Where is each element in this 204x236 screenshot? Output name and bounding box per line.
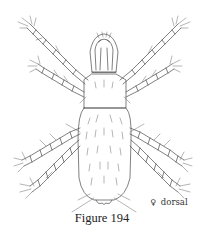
propodosoma <box>80 74 130 108</box>
hysterosoma <box>66 108 144 212</box>
gnathosoma <box>90 32 118 72</box>
leg-4-right <box>130 140 190 198</box>
view-label: ♀dorsal <box>150 197 188 207</box>
leg-1-right <box>120 16 190 84</box>
figure-194: ♀dorsal Figure 194 <box>0 0 204 236</box>
figure-caption: Figure 194 <box>0 211 204 226</box>
female-symbol: ♀ <box>150 198 156 207</box>
leg-3-left <box>14 128 80 172</box>
leg-4-left <box>20 140 80 198</box>
view-text: dorsal <box>161 197 188 207</box>
leg-2-right <box>126 56 182 97</box>
